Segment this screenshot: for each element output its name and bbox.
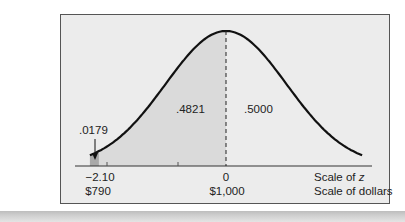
scale-z-prefix: Scale of bbox=[314, 171, 356, 183]
normal-curve-figure: .0179 .4821 .5000 −2.10 0 $790 $1,000 Sc… bbox=[0, 0, 405, 222]
dollar-tick-label-center: $1,000 bbox=[209, 186, 244, 198]
dollar-tick-label-left: $790 bbox=[85, 186, 111, 198]
z-tick-label-left: −2.10 bbox=[85, 172, 114, 184]
mid-area-label: .4821 bbox=[176, 104, 205, 116]
page-edge-strip bbox=[0, 211, 405, 222]
right-area-label: .5000 bbox=[244, 104, 273, 116]
z-tick-label-center: 0 bbox=[223, 172, 229, 184]
tail-area-label: .0179 bbox=[79, 125, 108, 137]
scale-dollars-label: Scale of dollars bbox=[314, 186, 393, 198]
scale-z-label: Scale of z bbox=[314, 172, 365, 184]
scale-z-variable: z bbox=[359, 171, 365, 183]
